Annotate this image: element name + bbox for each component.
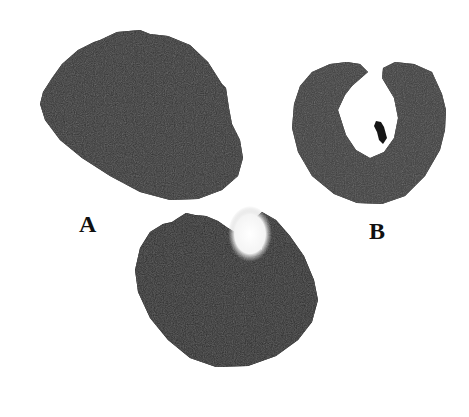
- specimen-a: [40, 30, 243, 200]
- pale-notch: [228, 206, 272, 262]
- specimen-b: [292, 62, 446, 204]
- specimen-figure: A B: [0, 0, 469, 417]
- panel-label-b: B: [369, 218, 385, 245]
- specimen-illustration: [0, 0, 469, 417]
- inner-fragment: [374, 121, 387, 144]
- specimen-c: [135, 206, 318, 367]
- panel-label-a: A: [79, 211, 96, 238]
